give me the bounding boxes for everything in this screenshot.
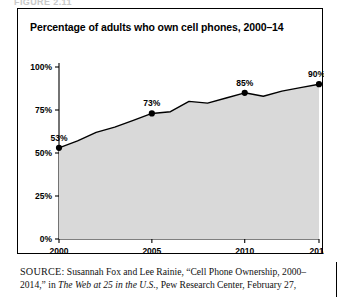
svg-text:53%: 53%: [50, 133, 67, 143]
source-kicker: SOURCE:: [20, 266, 64, 277]
page-rule-fragment: [336, 262, 338, 297]
svg-text:2010: 2010: [235, 246, 254, 255]
source-publication-title: The Web at 25 in the U.S.: [58, 279, 156, 290]
source-line2-post: , Pew Research Center, February 27,: [156, 279, 296, 290]
svg-text:90%: 90%: [308, 69, 324, 79]
svg-text:25%: 25%: [35, 191, 52, 201]
figure-box: Percentage of adults who own cell phones…: [17, 8, 323, 254]
chart-plot-area: 0%25%50%75%100% 2000200520102014 53%73%8…: [18, 9, 324, 255]
source-line1: Susannah Fox and Lee Rainie, “Cell Phone…: [64, 266, 306, 277]
svg-text:73%: 73%: [143, 98, 160, 108]
area-chart-svg: 0%25%50%75%100% 2000200520102014 53%73%8…: [18, 9, 324, 255]
svg-text:75%: 75%: [35, 105, 52, 115]
figure-running-head: FIGURE 2.11: [14, 0, 72, 7]
svg-text:85%: 85%: [236, 78, 253, 88]
svg-text:2014: 2014: [310, 246, 324, 255]
svg-text:0%: 0%: [40, 234, 53, 244]
source-note: SOURCE: Susannah Fox and Lee Rainie, “Ce…: [20, 265, 324, 291]
svg-text:50%: 50%: [35, 148, 52, 158]
svg-text:2000: 2000: [50, 246, 69, 255]
x-axis-tick-labels: 2000200520102014: [50, 246, 324, 255]
svg-text:2005: 2005: [142, 246, 161, 255]
svg-text:100%: 100%: [30, 62, 52, 72]
source-line2-pre: 2014,” in: [20, 279, 58, 290]
series-area-layer: [59, 84, 319, 239]
y-axis-tick-labels: 0%25%50%75%100%: [30, 62, 52, 244]
